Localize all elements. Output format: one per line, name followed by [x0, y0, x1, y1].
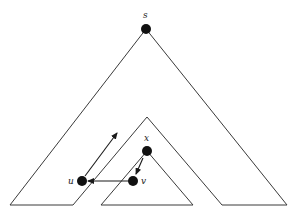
node-v: [128, 176, 138, 186]
diagram-canvas: s x u v: [0, 0, 298, 218]
node-x: [142, 146, 152, 156]
outer-tree-outline: [10, 29, 287, 205]
arrow-u-up: [85, 133, 117, 176]
label-u: u: [68, 176, 74, 186]
subtree-x-outline: [101, 151, 193, 205]
label-s: s: [143, 10, 148, 20]
node-u: [77, 176, 87, 186]
label-x: x: [144, 133, 149, 143]
node-s: [141, 24, 151, 34]
label-v: v: [141, 176, 146, 186]
